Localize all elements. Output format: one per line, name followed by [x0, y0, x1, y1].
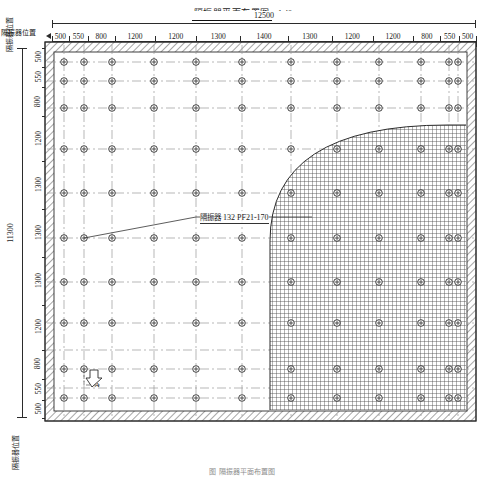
dimension-value-left: 1300	[31, 161, 45, 209]
dimension-value-left: 550	[31, 379, 45, 399]
dimension-tick-top	[17, 48, 27, 49]
dimension-value-left: 500	[31, 400, 45, 419]
dimension-value-top: 800	[413, 32, 440, 41]
dimension-value-top: 550	[440, 32, 459, 41]
overall-dimension-left: 11300	[14, 48, 26, 418]
isolator-spec-annotation: 隔振器 132 PF21-170	[200, 211, 269, 224]
label-isolator-position-left-bottom: 隔振器位置	[10, 435, 20, 470]
leader-arrow-top	[46, 33, 51, 39]
dimension-line	[22, 48, 23, 418]
crosshatch-slab-region	[270, 125, 466, 410]
dimension-tick-bottom	[17, 417, 27, 418]
plan-svg	[44, 41, 484, 423]
figure-caption: 图 隔振器平面布置图	[0, 466, 484, 478]
dimension-line	[52, 23, 476, 24]
dimension-value-left: 1300	[31, 209, 45, 257]
dimension-value-top: 1300	[288, 32, 332, 41]
dimension-value-top: 1200	[115, 32, 156, 41]
overall-dimension-top: 12500	[52, 13, 476, 25]
dimension-value-top: 800	[88, 32, 115, 41]
dimension-value-left: 800	[31, 87, 45, 117]
dimension-value-top: 500	[52, 32, 69, 41]
annotation-spec: 132 PF21-170	[223, 213, 269, 222]
dimension-value-left: 1300	[31, 257, 45, 305]
label-isolator-position-left-top: 隔振器位置	[4, 17, 14, 52]
dimension-strip-top: 5005508001200120013001400130012001200800…	[52, 26, 476, 42]
plan-drawing	[44, 41, 484, 423]
section-mark-a-label: A	[95, 381, 99, 389]
dimension-value-top: 500	[459, 32, 476, 41]
dimension-value-top: 1200	[332, 32, 373, 41]
dimension-value-left: 1200	[31, 305, 45, 349]
dimension-value-left: 1200	[31, 116, 45, 160]
overall-width-label: 12500	[52, 11, 476, 20]
dimension-value-left: 500	[31, 48, 45, 67]
dimension-value-top: 1200	[373, 32, 414, 41]
dimension-value-top: 1200	[155, 32, 196, 41]
dimension-value-left: 550	[31, 67, 45, 87]
dimension-value-top: 550	[69, 32, 88, 41]
overall-height-label: 11300	[6, 223, 15, 243]
annotation-prefix: 隔振器	[200, 213, 221, 222]
dimension-value-top: 1300	[196, 32, 240, 41]
dimension-value-top: 1400	[240, 32, 287, 41]
dimension-value-left: 800	[31, 350, 45, 380]
